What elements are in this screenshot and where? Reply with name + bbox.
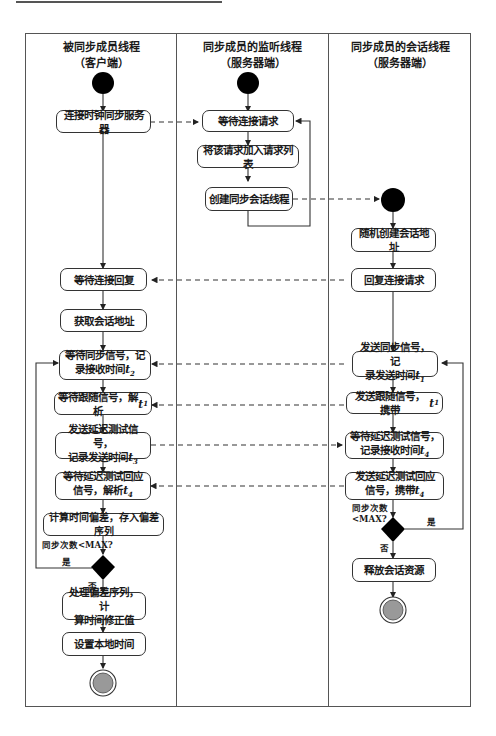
node-add-request-list: 将该请求加入请求列表 [197,145,299,168]
node-label: 发送延迟测试信号， [59,422,147,450]
node-label: 记录接收时间 [360,444,420,456]
guard-text: 同步次数 [352,503,388,514]
node-label: 回复连接请求 [364,273,424,287]
node-label: 信号，解析 [73,484,123,496]
node-label: 等待连接回复 [74,273,134,287]
node-label: 录接收时间 [75,363,125,375]
node-create-session-address: 随机创建会话地址 [351,228,436,252]
var-subscript: 4 [128,491,133,500]
node-wait-connection-request: 等待连接请求 [202,110,294,132]
node-label: 等待跟随信号，解析 [58,390,138,418]
node-label: 随机创建会话地址 [355,226,432,254]
node-release-session: 释放会话资源 [352,558,436,582]
node-label: 发送同步信号，记 [356,340,434,368]
start-node-session [381,188,405,212]
node-label: 将该请求加入请求列表 [201,143,295,171]
guard-no-session: 否 [380,543,389,554]
node-wait-delay-test: 等待延迟测试信号， 记录接收时间t4 [345,432,444,459]
guard-text: <MAX? [352,514,388,525]
var-subscript: 4 [424,450,429,459]
var-subscript: 3 [133,457,138,466]
node-create-session-thread: 创建同步会话线程 [205,187,293,211]
node-wait-follow-signal: 等待跟随信号，解析t1 [54,392,152,415]
node-label: 释放会话资源 [364,563,424,577]
node-label: 算时间修正值 [66,613,142,627]
guard-condition-session: 同步次数 <MAX? [352,503,388,525]
node-label: 信号，携带 [365,484,415,496]
guard-yes-client: 是 [62,557,71,568]
node-compute-deviation: 计算时间偏差，存入偏差序列 [43,513,164,536]
node-reply-connection-request: 回复连接请求 [351,268,436,292]
node-label: 计算时间偏差，存入偏差序列 [47,511,160,539]
node-wait-sync-signal: 等待同步信号，记 录接收时间t2 [59,350,151,380]
node-label: 获取会话地址 [74,314,134,328]
node-label: 设置本地时间 [74,637,134,651]
var-subscript: 1 [434,396,439,410]
node-label: 发送延迟测试回应 [355,469,435,483]
var-subscript: 2 [130,370,135,379]
var-subscript: 4 [419,491,424,500]
node-label: 等待同步信号，记 [65,348,145,362]
node-process-deviation: 处理偏差序列，计 算时间修正值 [62,592,146,620]
node-connect-server: 连接时钟同步服务器 [56,110,151,133]
start-node-client [92,72,114,94]
var-subscript: 1 [420,376,425,385]
node-label: 发送跟随信号，携带 [350,389,429,417]
node-label: 处理偏差序列，计 [66,585,142,613]
node-send-delay-test: 发送延迟测试信号， 记录发送时间t3 [55,432,151,459]
node-label: 创建同步会话线程 [209,192,289,206]
node-wait-delay-response: 等待延迟测试回应 信号，解析t4 [55,472,151,500]
start-node-listener [237,72,259,94]
node-label: 记录发送时间 [68,451,128,463]
node-set-local-time: 设置本地时间 [62,632,146,656]
node-wait-reply: 等待连接回复 [60,268,147,291]
node-send-delay-response: 发送延迟测试回应 信号，携带t4 [345,472,444,500]
node-label: 等待连接请求 [218,114,278,128]
guard-condition-client: 同步次数<MAX? [42,540,113,551]
decision-diamond-client [91,555,115,580]
node-get-session-address: 获取会话地址 [60,309,147,332]
node-send-sync-signal: 发送同步信号，记 录发送时间t1 [352,351,438,377]
node-label: 等待延迟测试回应 [63,469,143,483]
node-label: 等待延迟测试信号， [350,429,440,443]
node-label: 连接时钟同步服务器 [60,108,147,136]
node-label: 录发送时间 [365,369,415,381]
var-subscript: 1 [143,397,148,411]
guard-yes-session: 是 [427,517,436,528]
node-send-follow-signal: 发送跟随信号，携带t1 [346,392,443,414]
